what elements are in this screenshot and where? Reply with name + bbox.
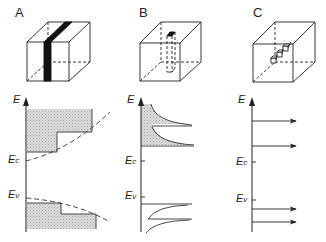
energy-axis-label-a: E — [13, 93, 20, 105]
energy-axis-label-c: E — [238, 93, 245, 105]
ev-label-c: Ev — [236, 192, 247, 204]
cube-c-dots — [253, 22, 315, 82]
diagram-canvas — [0, 0, 326, 242]
ec-label-b: Ec — [125, 154, 136, 166]
panel-label-c: C — [253, 5, 262, 20]
ec-label-a: Ec — [8, 153, 19, 165]
dos-panel-c — [249, 97, 296, 232]
cube-a-slab — [27, 22, 90, 81]
ec-label-c: Ec — [236, 155, 247, 167]
panel-label-b: B — [139, 5, 148, 20]
cube-b-wire — [140, 22, 201, 81]
dos-panel-a — [23, 97, 110, 232]
energy-axis-label-b: E — [127, 93, 134, 105]
ev-label-b: Ev — [125, 189, 136, 201]
dos-panel-b — [138, 97, 194, 233]
panel-label-a: A — [15, 5, 24, 20]
ev-label-a: Ev — [8, 188, 19, 200]
